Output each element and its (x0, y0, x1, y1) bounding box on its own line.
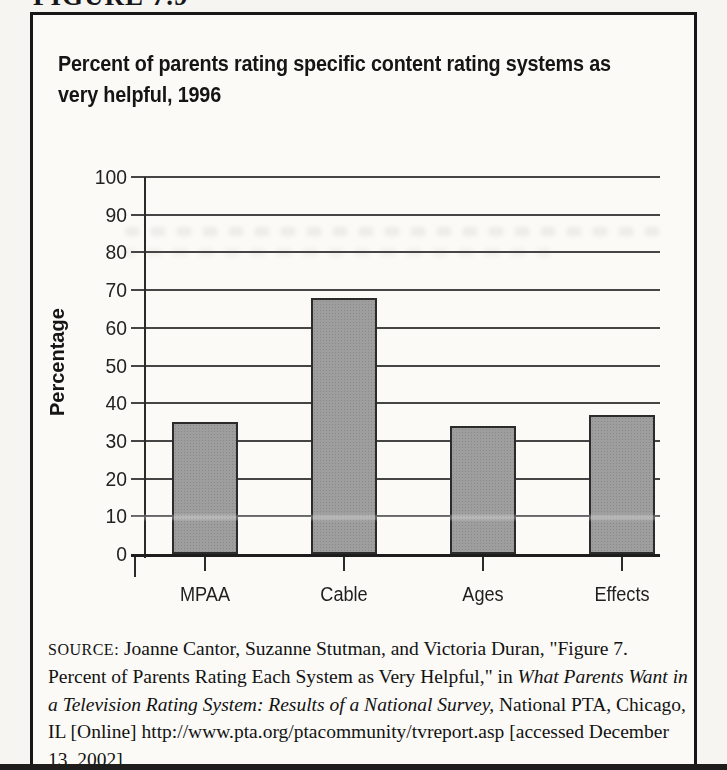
gridline-60 (131, 327, 660, 329)
y-tick-label-90: 90 (79, 204, 127, 226)
x-tick-ages (482, 557, 484, 571)
source-segments: Joanne Cantor, Suzanne Stutman, and Vict… (48, 638, 688, 770)
bar-mpaa (172, 422, 238, 554)
y-axis-line (144, 177, 146, 558)
source-label: SOURCE: (48, 641, 119, 658)
x-category-label-ages: Ages (427, 583, 539, 606)
bar-chart-plot-area: 0102030405060708090100MPAACableAgesEffec… (145, 177, 660, 556)
y-axis-title: Percentage (46, 300, 70, 425)
gridline-90 (131, 214, 660, 216)
bar-effects (589, 415, 655, 554)
y-tick-label-50: 50 (79, 355, 127, 377)
x-category-label-effects: Effects (566, 583, 678, 606)
gridline-40 (131, 402, 660, 404)
gridline-80 (131, 251, 660, 253)
x-tick-effects (621, 557, 623, 571)
figure-number-label: FIGURE 7.9 (33, 0, 189, 10)
y-tick-label-40: 40 (79, 392, 127, 414)
y-tick-label-80: 80 (79, 241, 127, 263)
chart-title: Percent of parents rating specific conte… (58, 48, 612, 110)
x-axis-left-descender (134, 557, 136, 577)
y-tick-label-70: 70 (79, 279, 127, 301)
gridline-70 (131, 289, 660, 291)
source-citation: SOURCE: Joanne Cantor, Suzanne Stutman, … (48, 635, 690, 770)
scan-streak-artifact (131, 515, 660, 520)
page-bottom-rule (0, 764, 727, 770)
y-tick-label-60: 60 (79, 317, 127, 339)
y-tick-label-100: 100 (79, 166, 127, 188)
figure-number-clip: FIGURE 7.9 (33, 0, 253, 10)
x-category-label-mpaa: MPAA (149, 583, 261, 606)
gridline-100 (131, 176, 660, 178)
y-tick-label-30: 30 (79, 430, 127, 452)
gridline-50 (131, 365, 660, 367)
x-tick-cable (343, 557, 345, 571)
chart-title-line1: Percent of parents rating specific conte… (58, 48, 612, 79)
y-tick-label-20: 20 (79, 468, 127, 490)
x-axis-baseline (131, 554, 660, 557)
x-tick-mpaa (204, 557, 206, 571)
y-tick-label-10: 10 (79, 505, 127, 527)
y-tick-label-0: 0 (79, 543, 127, 565)
bar-ages (450, 426, 516, 554)
chart-title-line2: very helpful, 1996 (58, 79, 612, 110)
x-category-label-cable: Cable (288, 583, 400, 606)
